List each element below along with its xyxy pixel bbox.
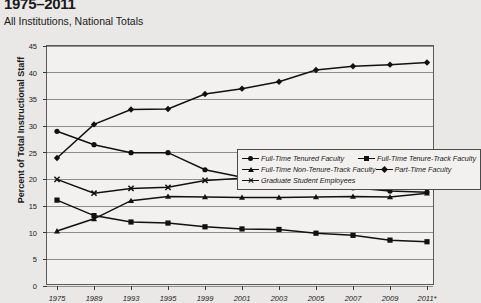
- data-point: [165, 220, 170, 225]
- y-tick-label: 30: [0, 122, 37, 131]
- x-marker-icon: [242, 176, 259, 185]
- legend-label: Graduate Student Employees: [261, 175, 355, 186]
- data-point: [128, 219, 133, 224]
- legend-label: Full-Time Non-Tenure-Track Faculty: [261, 164, 376, 175]
- data-point: [165, 150, 170, 155]
- x-tick-mark: [205, 286, 206, 290]
- data-point: [276, 227, 281, 232]
- x-tick-label: 1999: [197, 294, 214, 303]
- data-point: [128, 106, 134, 112]
- triangle-marker-icon: [242, 165, 259, 174]
- x-tick-mark: [353, 286, 354, 290]
- x-tick-label: 2003: [271, 294, 288, 303]
- legend-row: Full-Time Tenured Faculty Full-Time Tenu…: [242, 153, 476, 164]
- legend-item-graduate-students: Graduate Student Employees: [242, 175, 355, 186]
- x-tick-label: 1995: [160, 294, 177, 303]
- y-tick-label: 0: [0, 282, 37, 291]
- x-tick-label: 2007: [345, 294, 362, 303]
- data-point: [350, 233, 355, 238]
- data-point: [276, 79, 282, 85]
- x-tick-mark: [390, 286, 391, 290]
- legend-item-tenured: Full-Time Tenured Faculty: [242, 153, 358, 164]
- x-tick-label: 1989: [86, 294, 103, 303]
- x-tick-mark: [168, 286, 169, 290]
- x-tick-mark: [94, 286, 95, 290]
- legend-label: Full-Time Tenure-Track Faculty: [377, 153, 476, 164]
- x-tick-mark: [131, 286, 132, 290]
- series-4: [54, 59, 430, 161]
- y-tick-label: 5: [0, 255, 37, 264]
- x-tick-label: 1993: [123, 294, 140, 303]
- square-marker-icon: [358, 154, 375, 163]
- data-point: [202, 91, 208, 97]
- y-tick-label: 10: [0, 229, 37, 238]
- y-tick-label: 25: [0, 149, 37, 158]
- diamond-marker-icon: [376, 165, 393, 174]
- x-tick-label: 2009: [382, 294, 399, 303]
- x-tick-label: 1975: [49, 294, 66, 303]
- data-point: [54, 129, 59, 134]
- legend-row: Graduate Student Employees: [242, 175, 476, 186]
- data-point: [165, 106, 171, 112]
- x-tick-label: 2005: [308, 294, 325, 303]
- data-point: [202, 167, 207, 172]
- x-tick-label: 2011*: [417, 294, 436, 303]
- page-subtitle: All Institutions, National Totals: [4, 15, 143, 27]
- legend-label: Part-Time Faculty: [395, 164, 452, 175]
- y-tick-label: 15: [0, 202, 37, 211]
- data-point: [91, 142, 96, 147]
- x-tick-mark: [279, 286, 280, 290]
- legend-label: Full-Time Tenured Faculty: [261, 153, 344, 164]
- x-tick-mark: [57, 286, 58, 290]
- x-tick-mark: [316, 286, 317, 290]
- legend-item-tenure-track: Full-Time Tenure-Track Faculty: [358, 153, 476, 164]
- legend-row: Full-Time Non-Tenure-Track Faculty Part-…: [242, 164, 476, 175]
- data-point: [313, 231, 318, 236]
- data-point: [202, 224, 207, 229]
- x-tick-label: 2001: [234, 294, 251, 303]
- data-point: [424, 59, 430, 65]
- chart-legend: Full-Time Tenured Faculty Full-Time Tenu…: [237, 149, 481, 190]
- y-tick-label: 45: [0, 42, 37, 51]
- x-tick-mark: [242, 286, 243, 290]
- page-title: 1975–2011: [4, 0, 76, 12]
- y-tick-label: 20: [0, 175, 37, 184]
- y-tick-label: 40: [0, 69, 37, 78]
- legend-item-non-tenure-track: Full-Time Non-Tenure-Track Faculty: [242, 164, 376, 175]
- data-point: [54, 198, 59, 203]
- data-point: [239, 226, 244, 231]
- data-point: [387, 238, 392, 243]
- data-point: [128, 150, 133, 155]
- data-point: [387, 61, 393, 67]
- series-2: [54, 198, 429, 245]
- y-tick-label: 35: [0, 95, 37, 104]
- data-point: [350, 63, 356, 69]
- legend-item-part-time: Part-Time Faculty: [376, 164, 452, 175]
- x-tick-mark: [427, 286, 428, 290]
- data-point: [239, 85, 245, 91]
- data-point: [424, 239, 429, 244]
- plot-area: 051015202530354045 197519891993199519992…: [46, 45, 434, 285]
- circle-marker-icon: [242, 154, 259, 163]
- data-point: [313, 67, 319, 73]
